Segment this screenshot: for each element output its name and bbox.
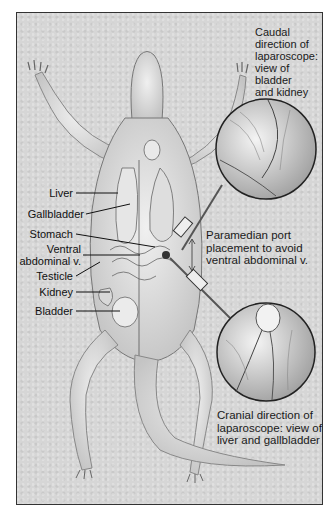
caption-line: Cranial direction of [217,409,322,422]
heart [144,140,160,160]
label-stomach: Stomach [18,228,73,241]
caption-line: Caudal [255,26,318,38]
caption-port-placement: Paramedian port placement to avoid ventr… [206,229,308,267]
caption-line: bladder [255,74,318,86]
caption-line: Paramedian port [206,229,308,242]
cranial-view-inset [217,303,315,401]
caption-line: ventral abdominal v. [206,254,308,267]
caption-line: laparoscope: view of [217,422,322,435]
liver [116,168,138,243]
label-testicle: Testicle [18,270,73,283]
label-gallbladder: Gallbladder [18,208,84,221]
caption-caudal-view: Caudal direction of laparoscope: view of… [255,26,318,98]
caption-line: liver and gallbladder [217,434,322,447]
port-site [162,251,170,259]
caption-cranial-view: Cranial direction of laparoscope: view o… [217,409,322,447]
label-bladder: Bladder [18,305,73,318]
caption-line: and kidney [255,86,318,98]
label-kidney: Kidney [18,286,73,299]
caption-line: placement to avoid [206,242,308,255]
caption-line: view of [255,62,318,74]
caption-line: direction of [255,38,318,50]
lizard-head [131,52,163,121]
label-liver: Liver [20,187,73,200]
caption-line: laparoscope: [255,50,318,62]
caudal-view-inset [216,99,316,199]
label-ventral: Ventral [18,243,81,256]
label-abdominal-v: abdominal v. [18,255,81,268]
bladder [112,297,138,327]
